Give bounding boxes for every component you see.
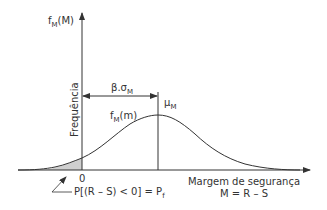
beta-sigma-label: β.σM (111, 82, 133, 96)
distribution-curve (18, 115, 300, 170)
origin-label: 0 (79, 173, 85, 184)
y-axis-title: Frequência (69, 82, 80, 137)
failure-pointer-arrow (52, 177, 72, 192)
x-axis-title: Margem de segurança (188, 176, 300, 187)
reliability-diagram: fM(M) Frequência β.σM μM fM(m) 0 P[(R – … (0, 0, 327, 210)
y-axis-label: fM(M) (48, 15, 74, 29)
x-axis-formula: M = R – S (220, 188, 268, 199)
mean-label: μM (164, 97, 176, 111)
failure-probability-label: P[(R – S) < 0] = Pf (74, 186, 165, 200)
